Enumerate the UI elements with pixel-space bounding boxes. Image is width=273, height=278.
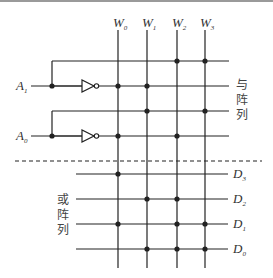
or-array-label: 或 — [57, 193, 69, 207]
input-label-a0: A0 — [15, 128, 28, 145]
junction-dot — [144, 246, 149, 251]
junction-dot — [115, 133, 120, 138]
column-label-w1: W1 — [142, 15, 156, 32]
column-label-w2: W2 — [172, 15, 187, 32]
rom-array-diagram: W0W1W2W3A1A0与阵列D3D2D1D0或阵列 — [0, 0, 273, 278]
junction-dot — [144, 108, 149, 113]
junction-dot — [115, 171, 120, 176]
junction-dot — [202, 246, 207, 251]
and-array-label: 列 — [236, 108, 248, 122]
inverter-icon — [82, 80, 94, 92]
output-label-d1: D1 — [232, 216, 246, 233]
output-label-d3: D3 — [232, 166, 246, 183]
junction-dot — [174, 133, 179, 138]
junction-dot — [174, 221, 179, 226]
junction-dot — [144, 83, 149, 88]
inverter-bubble-icon — [94, 84, 98, 88]
column-label-w3: W3 — [200, 15, 215, 32]
junction-dot — [202, 221, 207, 226]
or-array-label: 列 — [57, 223, 69, 237]
and-array-label: 阵 — [236, 93, 248, 107]
junction-dot — [174, 196, 179, 201]
inverter-icon — [82, 130, 94, 142]
output-label-d2: D2 — [232, 191, 246, 208]
inverter-bubble-icon — [94, 134, 98, 138]
junction-dot — [202, 108, 207, 113]
junction-dot — [144, 196, 149, 201]
junction-dot — [174, 58, 179, 63]
or-array-label: 阵 — [57, 208, 69, 222]
junction-dot — [174, 246, 179, 251]
column-label-w0: W0 — [113, 15, 128, 32]
junction-dot — [49, 83, 54, 88]
junction-dot — [49, 133, 54, 138]
junction-dot — [115, 221, 120, 226]
input-label-a1: A1 — [15, 78, 27, 95]
junction-dot — [115, 83, 120, 88]
junction-dot — [202, 58, 207, 63]
output-label-d0: D0 — [232, 241, 246, 258]
and-array-label: 与 — [236, 78, 248, 92]
